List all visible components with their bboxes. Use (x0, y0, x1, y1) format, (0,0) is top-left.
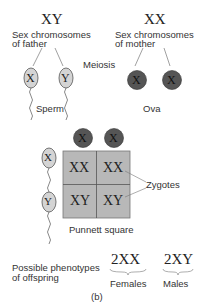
ovum-x-allele-2: X (167, 73, 176, 88)
ova-label: Ova (143, 104, 160, 114)
zygotes-label: Zygotes (146, 180, 180, 190)
mother-genotype: XX (144, 11, 166, 28)
punnett-side-y: Y (44, 195, 52, 207)
sperm-y-allele: Y (61, 71, 70, 86)
mother-label-line2: of mother (115, 39, 155, 49)
female-count: 2XX (111, 251, 140, 268)
father-genotype: XY (41, 11, 63, 28)
punnett-side-x: X (44, 151, 52, 163)
punnett-top-x-1: X (78, 131, 87, 146)
punnett-square-label: Punnett square (69, 225, 133, 235)
punnett-top-x-2: X (109, 131, 118, 146)
male-label: Males (163, 279, 188, 289)
male-count: 2XY (164, 251, 193, 268)
ovum-x-allele-1: X (132, 73, 141, 88)
sex-determination-diagram: XY Sex chromosomes of father XX Sex chro… (0, 0, 200, 306)
sperm-label: Sperm (36, 104, 64, 114)
father-label-line2: of father (12, 39, 47, 49)
phenotypes-label-line2: of offspring (12, 273, 59, 283)
punnett-cell-2-2: XY (103, 193, 123, 209)
meiosis-label: Meiosis (83, 60, 115, 70)
figure-caption: (b) (91, 292, 103, 302)
punnett-cell-1-1: XX (69, 160, 89, 176)
female-label: Females (110, 279, 146, 289)
sperm-x-allele: X (26, 71, 35, 86)
punnett-cell-2-1: XY (70, 193, 90, 209)
punnett-cell-1-2: XX (103, 160, 123, 176)
